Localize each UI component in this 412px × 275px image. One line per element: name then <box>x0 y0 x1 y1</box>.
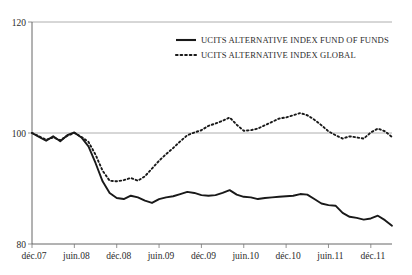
chart-page: 120 100 80 déc.07juin.08déc.08juin.09déc… <box>0 0 412 275</box>
x-tick-marks <box>32 244 371 248</box>
x-tick-label: juin.09 <box>147 251 175 261</box>
series-line-global <box>32 113 392 181</box>
index-performance-line-chart: 120 100 80 déc.07juin.08déc.08juin.09déc… <box>0 0 412 275</box>
y-tick-label-80: 80 <box>17 240 27 250</box>
y-tick-labels: 120 100 80 <box>12 18 27 250</box>
series-group <box>32 113 392 226</box>
x-tick-label: déc.07 <box>21 251 46 261</box>
x-tick-label: déc.08 <box>106 251 131 261</box>
x-tick-label: juin.11 <box>316 251 344 261</box>
x-tick-label: déc.09 <box>191 251 216 261</box>
x-tick-labels: déc.07juin.08déc.08juin.09déc.09juin.10d… <box>21 251 385 261</box>
legend-label-fund-of-funds: UCITS ALTERNATIVE INDEX FUND OF FUNDS <box>201 35 389 45</box>
x-tick-label: juin.08 <box>62 251 90 261</box>
x-tick-label: juin.10 <box>231 251 259 261</box>
y-tick-label-120: 120 <box>12 18 27 28</box>
legend-label-global: UCITS ALTERNATIVE INDEX GLOBAL <box>201 50 356 60</box>
series-line-fund-of-funds <box>32 132 392 225</box>
y-tick-label-100: 100 <box>12 129 27 139</box>
chart-legend: UCITS ALTERNATIVE INDEX FUND OF FUNDS UC… <box>176 35 389 60</box>
x-tick-label: déc.10 <box>276 251 301 261</box>
x-tick-label: déc.11 <box>360 251 385 261</box>
